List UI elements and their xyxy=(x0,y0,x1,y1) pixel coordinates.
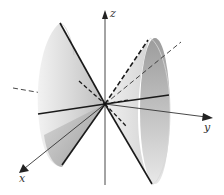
y-axis-arrowhead-icon xyxy=(202,113,213,121)
cone-diagram-svg xyxy=(0,0,224,195)
origin-vertex xyxy=(103,102,106,105)
double-cone-figure: z y x xyxy=(0,0,224,195)
z-axis xyxy=(102,10,108,185)
z-axis-label: z xyxy=(110,8,116,19)
x-axis-label: x xyxy=(19,173,25,184)
y-axis-label: y xyxy=(204,122,210,133)
z-axis-arrowhead-icon xyxy=(102,10,108,19)
